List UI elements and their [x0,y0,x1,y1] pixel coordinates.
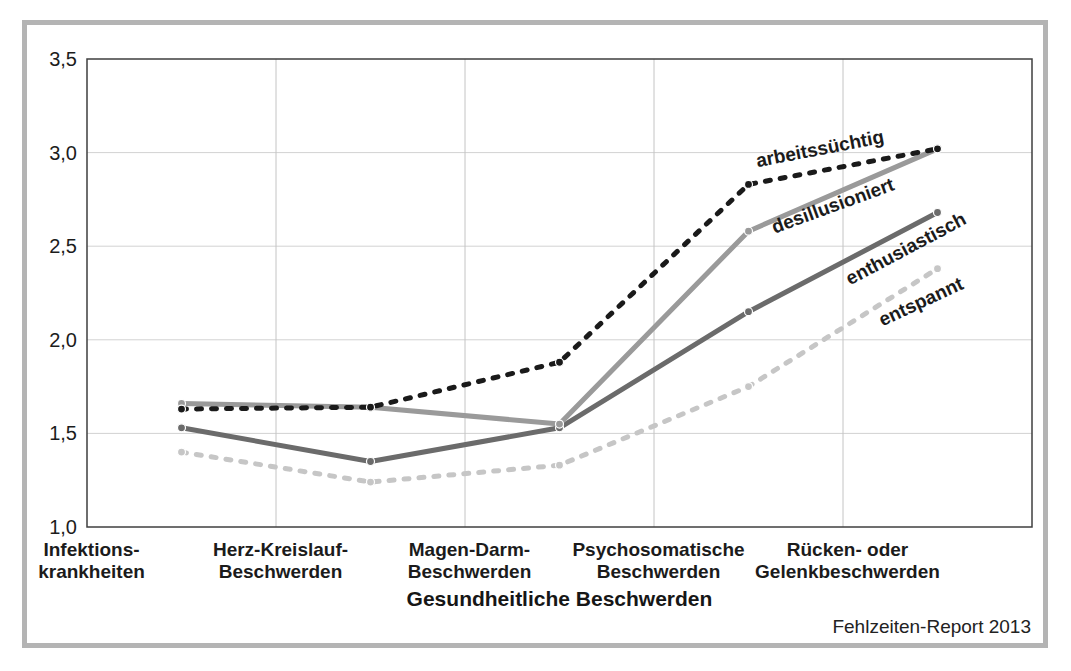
x-axis-category-label: Rücken- oder Gelenkbeschwerden [753,539,943,583]
x-label-line: Beschwerden [186,561,376,583]
x-axis-category-label: Psychosomatische Beschwerden [564,539,754,583]
x-label-line: Beschwerden [375,561,565,583]
x-label-line: Gelenkbeschwerden [753,561,943,583]
y-axis-tick: 2,5 [27,234,77,258]
x-label-line: Psychosomatische [564,539,754,561]
y-axis-tick: 3,5 [27,47,77,71]
chart-frame: 3,5 3,0 2,5 2,0 1,5 1,0 Infektions- kran… [22,20,1048,648]
y-axis-tick: 1,5 [27,421,77,445]
y-axis-tick: 2,0 [27,328,77,352]
y-axis-tick: 3,0 [27,141,77,165]
chart-page: 3,5 3,0 2,5 2,0 1,5 1,0 Infektions- kran… [0,0,1071,671]
x-label-line: Rücken- oder [753,539,943,561]
source-caption: Fehlzeiten-Report 2013 [832,616,1031,638]
x-axis-category-label: Herz-Kreislauf- Beschwerden [186,539,376,583]
chart-canvas: 3,5 3,0 2,5 2,0 1,5 1,0 Infektions- kran… [27,25,1043,643]
x-label-line: Infektions- [0,539,187,561]
x-label-line: Magen-Darm- [375,539,565,561]
x-axis-category-label: Infektions- krankheiten [0,539,187,583]
y-axis-tick: 1,0 [27,515,77,539]
x-label-line: Herz-Kreislauf- [186,539,376,561]
x-axis-category-label: Magen-Darm- Beschwerden [375,539,565,583]
x-axis-title: Gesundheitliche Beschwerden [87,587,1032,611]
x-label-line: Beschwerden [564,561,754,583]
x-label-line: krankheiten [0,561,187,583]
